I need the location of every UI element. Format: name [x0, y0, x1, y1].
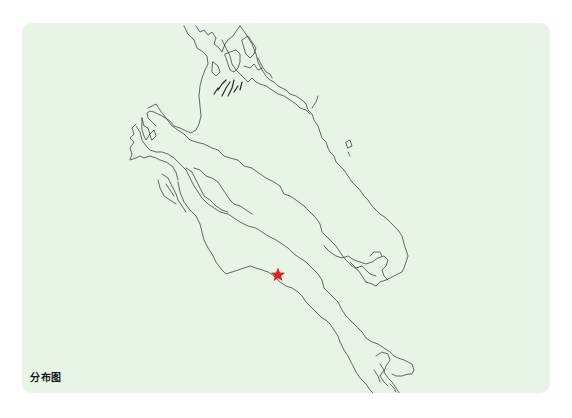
coastline-north-west	[147, 26, 208, 133]
coastline-north-islands	[196, 26, 310, 114]
coastline-west-outer	[178, 182, 374, 394]
coastline-south-islands	[374, 352, 402, 398]
coastline-east-bay	[324, 246, 388, 280]
coastline-middle-south	[136, 126, 414, 376]
location-star-marker	[271, 268, 285, 282]
map-caption: 分布图	[30, 369, 62, 384]
coastline-north-east	[240, 26, 408, 286]
distribution-map	[0, 0, 572, 418]
